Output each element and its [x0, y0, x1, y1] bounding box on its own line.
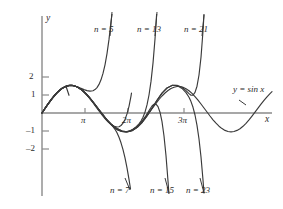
x-axis-label: x [265, 115, 269, 125]
curve-n15 [42, 85, 169, 195]
annotation-n5: n = 5 [94, 25, 114, 34]
annotation-n13: n = 13 [137, 25, 161, 34]
y-tick-label-2: 2 [29, 72, 34, 81]
annotation-n23: n = 23 [186, 186, 210, 195]
taylor-series-figure: y x 2 1 –1 –2 π 2π 3π n = 5 n = 13 n = 2… [0, 0, 283, 209]
x-tick-label-3pi: 3π [178, 116, 187, 125]
annotation-sine-curve: y = sin x [233, 85, 264, 94]
annotation-n7: n = 7 [110, 186, 130, 195]
curve-n7-branch [111, 125, 131, 190]
y-axis-label: y [46, 14, 50, 24]
y-tick-label-neg1: –1 [26, 126, 35, 135]
y-tick-label-1: 1 [31, 90, 36, 99]
x-tick-label-pi: π [81, 116, 86, 125]
leader-sine [239, 100, 246, 105]
y-tick-label-neg2: –2 [26, 144, 35, 153]
curve-n7 [42, 85, 132, 127]
annotation-leaders [110, 12, 246, 193]
x-tick-label-2pi: 2π [122, 116, 131, 125]
annotation-n21: n = 21 [184, 25, 208, 34]
curve-n23 [42, 85, 204, 193]
annotation-n15: n = 15 [150, 186, 174, 195]
curves-group [42, 11, 272, 195]
